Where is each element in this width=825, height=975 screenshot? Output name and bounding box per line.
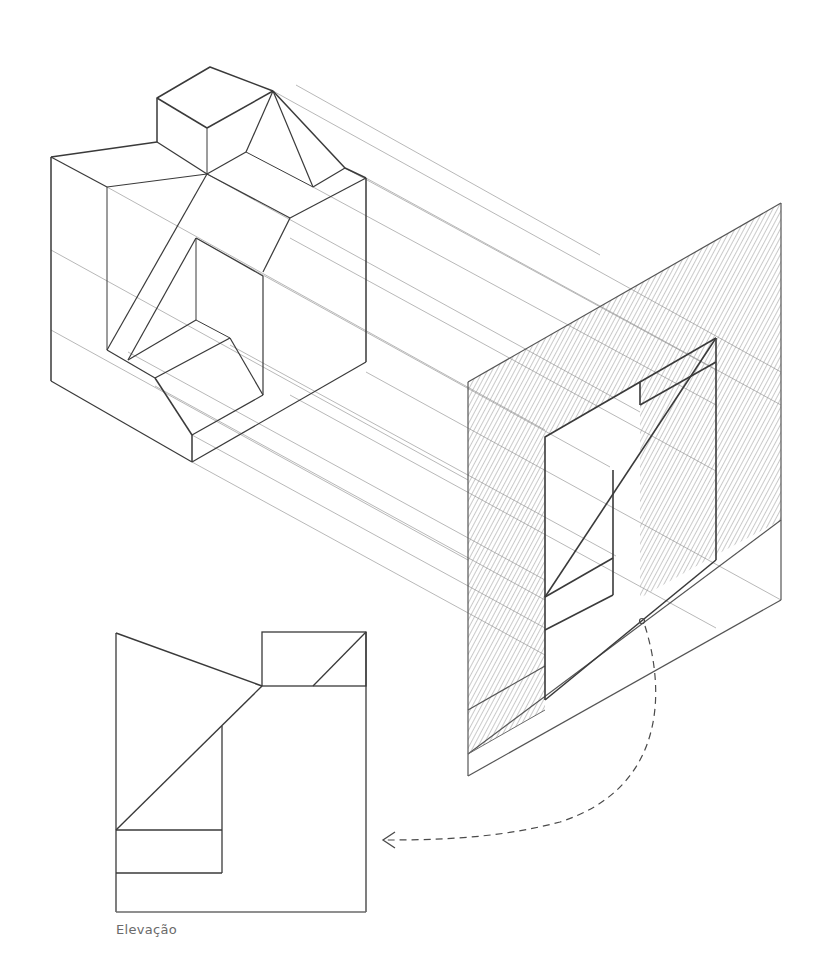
elevation-view	[116, 632, 366, 912]
elevation-label: Elevação	[116, 922, 177, 937]
isometric-block	[51, 67, 366, 462]
projection-plane	[468, 203, 781, 776]
projection-diagram	[0, 0, 825, 975]
